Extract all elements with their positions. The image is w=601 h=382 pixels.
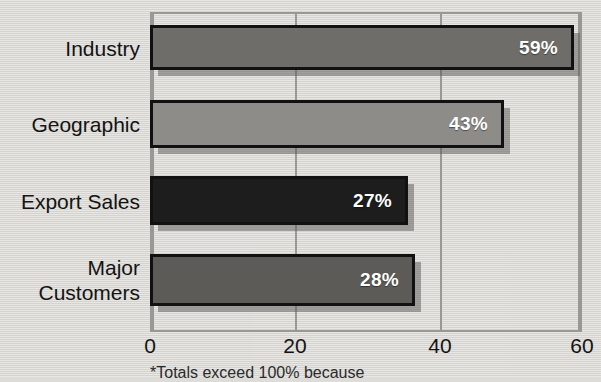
bar-value-label: 27%	[353, 190, 405, 212]
category-label-geographic: Geographic	[31, 112, 140, 137]
bar-export-sales[interactable]: 27%	[150, 176, 408, 225]
chart-footnote: *Totals exceed 100% because	[150, 364, 590, 382]
bar-value-label: 43%	[449, 113, 501, 135]
bar-value-label: 28%	[360, 269, 412, 291]
category-label-industry: Industry	[65, 36, 140, 61]
bar-value-label: 59%	[519, 37, 571, 59]
xtick-label-20: 20	[283, 334, 306, 358]
bar-major-customers[interactable]: 28%	[150, 254, 415, 306]
xtick-label-60: 60	[570, 334, 593, 358]
gridline-60	[578, 14, 580, 330]
xtick-label-0: 0	[144, 334, 156, 358]
xtick-label-40: 40	[428, 334, 451, 358]
bar-industry[interactable]: 59%	[150, 25, 574, 70]
bar-geographic[interactable]: 43%	[150, 100, 504, 148]
category-label-major-customers: Major Customers	[38, 255, 140, 305]
category-label-export-sales: Export Sales	[21, 189, 140, 214]
